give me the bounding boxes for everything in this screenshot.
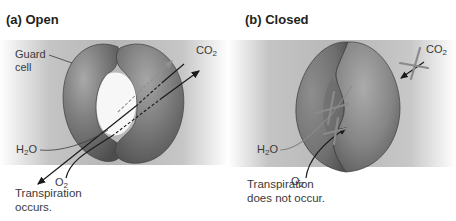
co2-label-closed: CO2 [426, 43, 447, 56]
h2o-label-closed: H2O [257, 143, 278, 156]
panel-closed: (b) Closed CO2 H2O O2 Transpiration does… [228, 0, 456, 221]
panel-title-open: (a) Open [6, 12, 59, 27]
co2-label-open: CO2 [196, 44, 217, 57]
caption-open: Transpiration occurs. [15, 187, 82, 214]
h2o-label-open: H2O [16, 143, 37, 156]
panel-title-closed: (b) Closed [245, 12, 309, 27]
guard-cell-label: Guard cell [15, 48, 46, 73]
panel-open: (a) Open Guard cell CO2 H2O O2 Transpira… [0, 0, 228, 221]
caption-closed: Transpiration does not occur. [247, 178, 325, 205]
